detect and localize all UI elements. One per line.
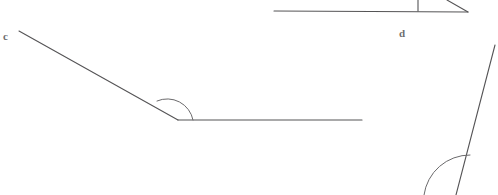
angle-c-group — [19, 31, 362, 120]
angle-d-baseline — [274, 11, 468, 12]
diagram-svg — [0, 0, 498, 195]
angle-label-d: d — [399, 28, 405, 39]
angle-c-arc — [157, 99, 193, 120]
geometry-diagram-canvas: c d — [0, 0, 498, 195]
angle-c-ray-upper-left — [19, 31, 178, 120]
angle-d-group — [274, 0, 468, 12]
angle-d-ray — [447, 0, 468, 12]
bottom-right-ray — [456, 45, 495, 195]
angle-bottom-right-group — [424, 45, 495, 195]
bottom-right-arc — [424, 155, 470, 195]
angle-label-c: c — [3, 31, 8, 42]
